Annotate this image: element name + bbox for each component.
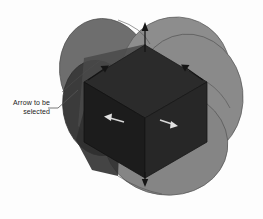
annotation-line-1: Arrow to be — [4, 99, 50, 108]
annotation-arrow-to-be-selected: Arrow to be selected — [4, 99, 50, 116]
annotation-line-2: selected — [4, 108, 50, 117]
viewport-3d: Arrow to be selected — [0, 0, 263, 219]
